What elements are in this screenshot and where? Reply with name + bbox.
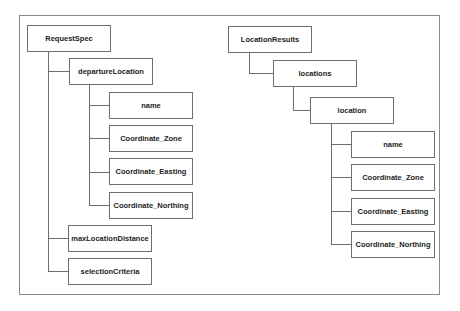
connector bbox=[89, 172, 109, 173]
connector bbox=[89, 205, 109, 206]
node-request-spec: RequestSpec bbox=[27, 25, 111, 52]
connector bbox=[331, 244, 351, 245]
node-coordinate-zone: Coordinate_Zone bbox=[351, 164, 435, 191]
node-max-location-distance: maxLocationDistance bbox=[68, 225, 152, 252]
node-location: location bbox=[310, 97, 394, 124]
connector bbox=[249, 53, 250, 74]
node-coordinate-easting: Coordinate_Easting bbox=[351, 198, 435, 225]
node-location-results: LocationResults bbox=[228, 26, 312, 53]
connector bbox=[48, 71, 69, 72]
connector bbox=[331, 124, 332, 245]
connector bbox=[89, 105, 109, 106]
node-selection-criteria: selectionCriteria bbox=[68, 258, 152, 285]
node-coordinate-zone: Coordinate_Zone bbox=[109, 125, 193, 152]
connector bbox=[331, 144, 351, 145]
node-locations: locations bbox=[273, 60, 357, 87]
connector bbox=[48, 52, 49, 272]
connector bbox=[331, 211, 351, 212]
connector bbox=[331, 177, 351, 178]
node-name: name bbox=[351, 131, 435, 158]
node-departure-location: departureLocation bbox=[69, 58, 153, 85]
node-coordinate-easting: Coordinate_Easting bbox=[109, 158, 193, 185]
node-coordinate-northing: Coordinate_Northing bbox=[109, 192, 193, 219]
connector bbox=[48, 238, 68, 239]
connector bbox=[89, 138, 109, 139]
connector bbox=[48, 271, 68, 272]
node-name: name bbox=[109, 92, 193, 119]
connector bbox=[293, 87, 294, 111]
connector bbox=[249, 73, 273, 74]
connector bbox=[293, 110, 310, 111]
node-coordinate-northing: Coordinate_Northing bbox=[351, 231, 435, 258]
connector bbox=[89, 85, 90, 206]
